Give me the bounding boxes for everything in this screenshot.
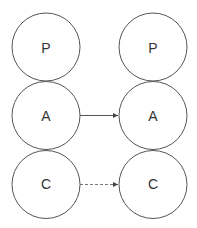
node-label: C bbox=[148, 176, 158, 192]
left-column: P A C bbox=[12, 13, 80, 219]
node-right-p: P bbox=[119, 13, 187, 81]
node-label: P bbox=[148, 40, 157, 56]
node-right-c: C bbox=[119, 151, 187, 219]
node-label: A bbox=[148, 108, 158, 124]
node-label: P bbox=[41, 40, 50, 56]
right-column: P A C bbox=[119, 13, 187, 219]
node-left-p: P bbox=[12, 13, 80, 81]
node-label: A bbox=[41, 108, 51, 124]
node-right-a: A bbox=[119, 82, 187, 150]
diagram-canvas: P A C P A C bbox=[0, 0, 197, 228]
node-left-a: A bbox=[12, 82, 80, 150]
node-left-c: C bbox=[12, 151, 80, 219]
node-label: C bbox=[41, 176, 51, 192]
